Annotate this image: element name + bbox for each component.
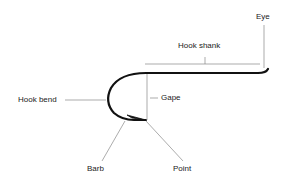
shank-bracket [145, 57, 260, 64]
barb-leader [102, 121, 125, 161]
point-leader [146, 121, 183, 161]
label-barb: Barb [87, 165, 104, 173]
label-point: Point [173, 165, 191, 173]
label-eye: Eye [256, 13, 270, 21]
label-gape: Gape [161, 94, 181, 102]
label-hook-shank: Hook shank [178, 42, 220, 50]
hook-shape [108, 69, 268, 120]
label-hook-bend: Hook bend [18, 96, 57, 104]
